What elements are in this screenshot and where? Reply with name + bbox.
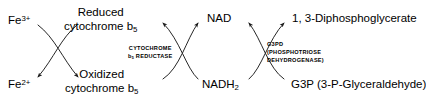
cytochrome-reductase-line2: b5 REDUCTASE — [128, 52, 173, 61]
g3pd-line3: DEHYDROGENASE) — [267, 56, 324, 64]
label-reduced-cytochrome-b5: Reduced cytochrome b5 — [64, 6, 137, 34]
label-g3p: G3P (3-P-Glyceraldehyde) — [291, 78, 426, 91]
label-nad: NAD — [207, 12, 231, 25]
reduced-cytochrome-line1: Reduced — [64, 6, 137, 20]
fe3-charge: 3+ — [21, 14, 30, 23]
oxidized-cytochrome-line2: cytochrome b5 — [65, 82, 138, 96]
label-g3pd-enzyme: G3PD (PHOSPHOTRIOSE DEHYDROGENASE) — [267, 40, 324, 64]
label-diphosphoglycerate: 1, 3-Diphosphoglycerate — [292, 12, 417, 25]
g3pd-line2: (PHOSPHOTRIOSE — [267, 48, 324, 56]
label-fe3: Fe3+ — [8, 14, 30, 27]
fe2-charge: 2+ — [21, 78, 30, 87]
label-fe2: Fe2+ — [8, 78, 30, 91]
oxidized-cytochrome-line1: Oxidized — [65, 68, 138, 82]
label-cytochrome-b5-reductase: CYTOCHROME b5 REDUCTASE — [128, 44, 173, 61]
g3pd-line1: G3PD — [267, 40, 324, 48]
cytochrome-reductase-line1: CYTOCHROME — [128, 44, 173, 52]
label-oxidized-cytochrome-b5: Oxidized cytochrome b5 — [65, 68, 138, 96]
label-nadh2: NADH2 — [202, 78, 239, 92]
reduced-cytochrome-line2: cytochrome b5 — [64, 20, 137, 34]
